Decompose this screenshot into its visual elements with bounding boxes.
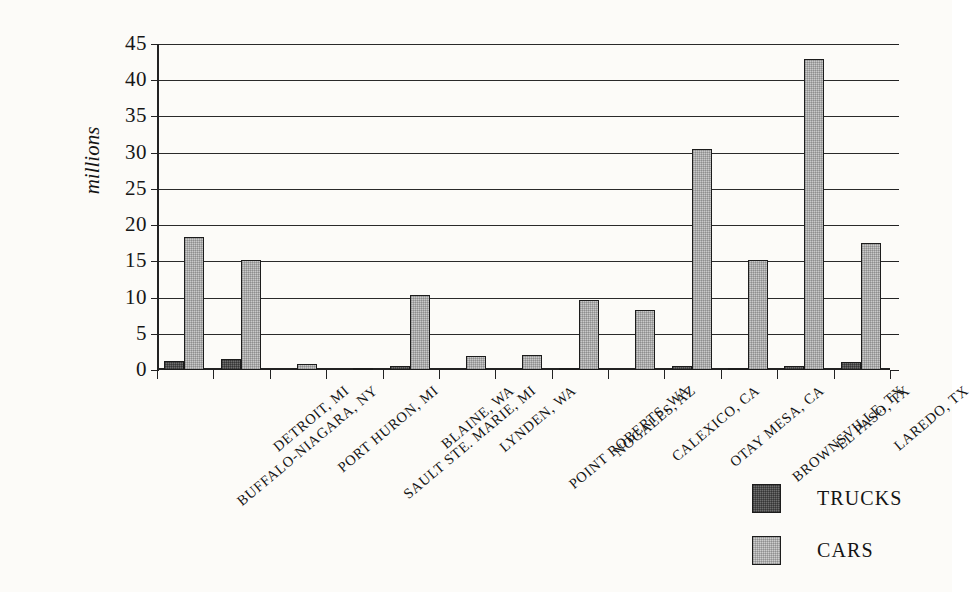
bar-cars[interactable] [522, 355, 542, 370]
y-axis-tick-right [890, 153, 899, 154]
bar-group [664, 44, 720, 370]
bar-trucks[interactable] [164, 361, 184, 370]
bar-group [721, 44, 777, 370]
chart-legend: TRUCKSCARS [752, 472, 942, 576]
y-axis-label: 30 [125, 140, 147, 165]
y-axis-tick-right [890, 334, 899, 335]
y-axis-label: 35 [125, 103, 147, 128]
cars-swatch [752, 536, 781, 565]
x-axis-labels: BUFFALO-NIAGARA, NYDETROIT, MIPORT HURON… [0, 370, 952, 480]
y-axis-tick-right [890, 116, 899, 117]
bar-group [439, 44, 495, 370]
bar-group [777, 44, 833, 370]
y-axis-label: 20 [125, 212, 147, 237]
bar-cars[interactable] [579, 300, 599, 370]
y-axis-label: 45 [125, 31, 147, 56]
bar-cars[interactable] [466, 356, 486, 370]
bar-group [608, 44, 664, 370]
y-axis-tick-right [890, 189, 899, 190]
bar-group [326, 44, 382, 370]
bar-cars[interactable] [861, 243, 881, 370]
bar-cars[interactable] [184, 237, 204, 370]
bar-group [383, 44, 439, 370]
y-axis-tick-right [890, 261, 899, 262]
bar-layer [157, 44, 890, 370]
y-axis-title: millions [80, 101, 105, 221]
bar-cars[interactable] [804, 59, 824, 370]
legend-item-label: TRUCKS [817, 487, 903, 510]
bar-trucks[interactable] [221, 359, 241, 370]
bar-group [157, 44, 213, 370]
y-axis-label: 15 [125, 248, 147, 273]
bar-cars[interactable] [241, 260, 261, 370]
bar-group [213, 44, 269, 370]
y-axis-tick-right [890, 80, 899, 81]
y-axis-tick-right [890, 44, 899, 45]
bar-cars[interactable] [635, 310, 655, 370]
bar-cars[interactable] [748, 260, 768, 370]
y-axis-tick-right [890, 298, 899, 299]
bar-cars[interactable] [410, 295, 430, 370]
bar-group [495, 44, 551, 370]
legend-item[interactable]: CARS [752, 524, 942, 576]
bar-group [552, 44, 608, 370]
bar-cars[interactable] [692, 149, 712, 370]
bar-trucks[interactable] [841, 362, 861, 370]
y-axis-label: 25 [125, 176, 147, 201]
bar-group [834, 44, 890, 370]
legend-item[interactable]: TRUCKS [752, 472, 942, 524]
y-axis-label: 40 [125, 67, 147, 92]
y-axis-label: 5 [136, 321, 147, 346]
bar-group [270, 44, 326, 370]
legend-item-label: CARS [817, 539, 874, 562]
y-axis-label: 10 [125, 285, 147, 310]
trucks-swatch [752, 484, 781, 513]
y-axis-tick-right [890, 225, 899, 226]
